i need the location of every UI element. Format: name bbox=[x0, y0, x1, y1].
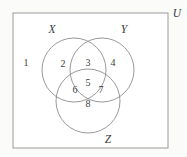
set-x-label: X bbox=[47, 23, 56, 35]
region-label-1: 1 bbox=[24, 57, 29, 68]
region-label-8: 8 bbox=[86, 98, 91, 109]
universal-set-rectangle bbox=[13, 13, 168, 148]
region-label-5: 5 bbox=[86, 77, 91, 88]
venn-diagram-canvas: U X Y Z 1 2 3 4 5 6 7 8 bbox=[0, 0, 187, 157]
region-label-7: 7 bbox=[99, 84, 104, 95]
set-z-label: Z bbox=[105, 133, 112, 145]
region-label-4: 4 bbox=[111, 57, 116, 68]
venn-diagram-figure: U X Y Z 1 2 3 4 5 6 7 8 bbox=[0, 0, 187, 157]
region-label-3: 3 bbox=[86, 57, 91, 68]
universal-set-label: U bbox=[173, 7, 182, 19]
region-label-6: 6 bbox=[73, 84, 78, 95]
region-label-2: 2 bbox=[61, 58, 66, 69]
